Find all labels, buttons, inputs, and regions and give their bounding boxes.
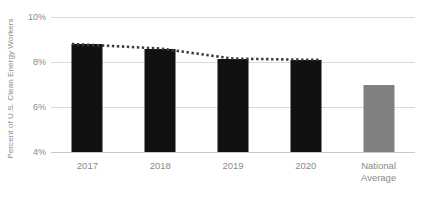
bar-2020[interactable] [290, 60, 321, 152]
clean-energy-workers-bar-chart: Percent of U.S. Clean Energy Workers 10%… [0, 0, 425, 205]
x-tick-line1: 2017 [51, 160, 124, 172]
bar-2017[interactable] [72, 44, 103, 152]
x-tick-label-2018: 2018 [124, 160, 197, 172]
bar-series [51, 17, 415, 152]
x-tick-line1: 2019 [197, 160, 270, 172]
bar-slot [124, 17, 197, 152]
bar-slot [197, 17, 270, 152]
x-tick-line2: Average [342, 172, 415, 184]
bar-national-average[interactable] [363, 85, 394, 153]
x-tick-line1: National [342, 160, 415, 172]
y-tick-label-6: 6% [18, 103, 46, 112]
gridline-4 [51, 152, 415, 153]
bar-2018[interactable] [145, 49, 176, 153]
bar-2019[interactable] [217, 59, 248, 152]
x-tick-label-2017: 2017 [51, 160, 124, 172]
y-tick-label-4: 4% [18, 148, 46, 157]
x-tick-label-2020: 2020 [269, 160, 342, 172]
y-tick-label-10: 10% [18, 13, 46, 22]
plot-area [51, 17, 415, 152]
bar-slot [269, 17, 342, 152]
x-tick-line1: 2020 [269, 160, 342, 172]
x-tick-label-2019: 2019 [197, 160, 270, 172]
x-tick-label-national: NationalAverage [342, 160, 415, 184]
y-axis-tick-labels: 10% 8% 6% 4% [18, 0, 46, 205]
bar-slot [342, 17, 415, 152]
y-tick-label-8: 8% [18, 58, 46, 67]
bar-slot [51, 17, 124, 152]
x-axis-tick-labels: 2017201820192020NationalAverage [51, 160, 415, 205]
y-axis-title: Percent of U.S. Clean Energy Workers [4, 1, 18, 176]
x-tick-line1: 2018 [124, 160, 197, 172]
